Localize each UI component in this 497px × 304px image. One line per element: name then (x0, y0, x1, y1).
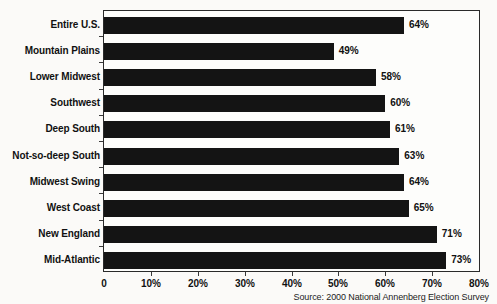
x-axis-label: 80% (469, 278, 489, 289)
y-axis-tick (99, 220, 103, 221)
y-axis-tick (99, 89, 103, 90)
bar (104, 148, 399, 165)
x-axis-label: 40% (282, 278, 302, 289)
bar-value-label: 58% (381, 72, 401, 82)
bar (104, 200, 409, 217)
x-axis-label: 0 (101, 278, 107, 289)
category-label: West Coast (0, 203, 100, 213)
bar-value-label: 61% (395, 124, 415, 134)
bar (104, 226, 437, 243)
x-axis-tick (385, 272, 386, 276)
bar-value-label: 64% (409, 177, 429, 187)
bar-value-label: 49% (339, 46, 359, 56)
y-axis-tick (99, 115, 103, 116)
plot-area: 64%49%58%60%61%63%64%65%71%73% (103, 10, 480, 272)
bar (104, 252, 446, 269)
y-axis-tick (99, 193, 103, 194)
x-axis-tick (338, 272, 339, 276)
bar (104, 43, 334, 60)
x-axis-label: 50% (328, 278, 348, 289)
y-axis-tick (99, 141, 103, 142)
bar (104, 95, 385, 112)
x-axis-label: 60% (375, 278, 395, 289)
bar-value-label: 71% (442, 229, 462, 239)
x-axis-tick (151, 272, 152, 276)
bar (104, 17, 404, 34)
x-axis-tick (198, 272, 199, 276)
bar-value-label: 65% (414, 203, 434, 213)
category-label: Not-so-deep South (0, 151, 100, 161)
y-axis-tick (99, 62, 103, 63)
x-axis-label: 30% (235, 278, 255, 289)
bar-value-label: 63% (404, 151, 424, 161)
x-axis-tick (292, 272, 293, 276)
bar-chart-figure: Entire U.S.Mountain PlainsLower MidwestS… (0, 0, 497, 304)
y-axis-tick (99, 246, 103, 247)
category-label: Southwest (0, 98, 100, 108)
x-axis-tick (432, 272, 433, 276)
bar-value-label: 73% (451, 255, 471, 265)
category-label: Midwest Swing (0, 177, 100, 187)
category-label: Entire U.S. (0, 20, 100, 30)
bar (104, 69, 376, 86)
bar (104, 174, 404, 191)
x-axis-label: 10% (141, 278, 161, 289)
x-axis-tick (245, 272, 246, 276)
category-label: Deep South (0, 124, 100, 134)
source-note: Source: 2000 National Annenberg Election… (294, 292, 489, 302)
category-label: Mountain Plains (0, 46, 100, 56)
bar (104, 121, 390, 138)
x-axis-label: 70% (422, 278, 442, 289)
plot-inner: 64%49%58%60%61%63%64%65%71%73% (104, 11, 479, 271)
y-axis-tick (99, 36, 103, 37)
bar-value-label: 64% (409, 20, 429, 30)
y-axis-tick (99, 167, 103, 168)
x-axis-label: 20% (188, 278, 208, 289)
bar-value-label: 60% (390, 98, 410, 108)
category-label: Mid-Atlantic (0, 255, 100, 265)
category-label: Lower Midwest (0, 72, 100, 82)
category-label: New England (0, 229, 100, 239)
category-axis: Entire U.S.Mountain PlainsLower MidwestS… (0, 10, 100, 272)
